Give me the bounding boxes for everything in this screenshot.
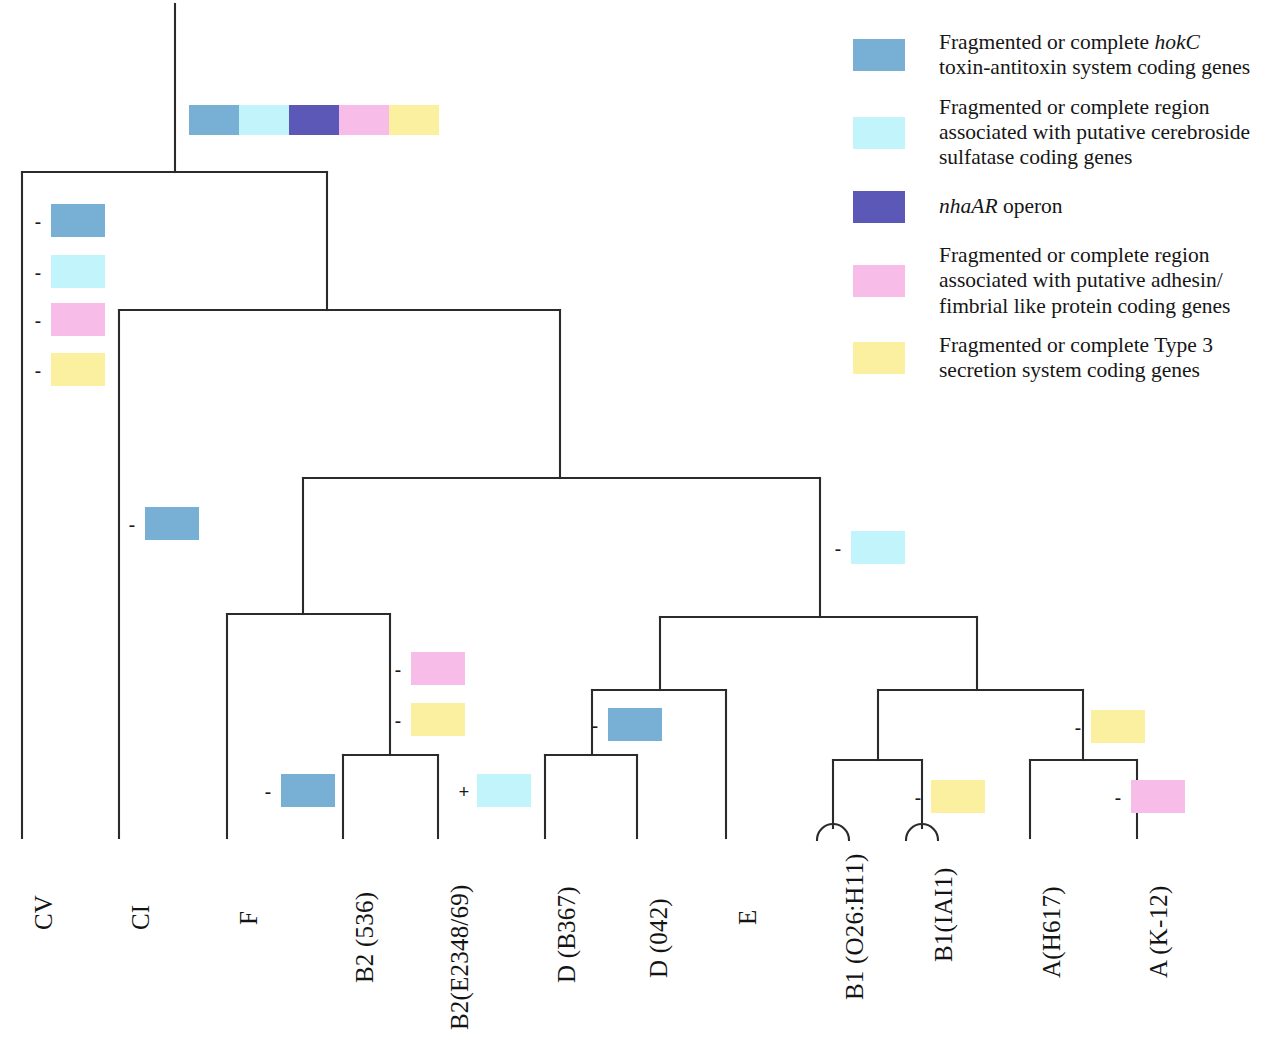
marker-b1iai1-t3ss: [931, 780, 985, 813]
leaf-label-b1-o26h11: B1 (O26:H11): [841, 853, 869, 1000]
leaf-label-b1-iai1: B1(IAI1): [930, 867, 958, 962]
leaf-label-b2-e234869: B2(E2348/69): [446, 885, 474, 1030]
marker-cv-adhesin-sign: -: [31, 311, 45, 330]
legend-swatch-t3ss: [853, 342, 905, 374]
leaf-label-ci: CI: [127, 905, 155, 930]
marker-b1a-t3ss: [1091, 710, 1145, 743]
legend-label-0: Fragmented or complete hokCtoxin-antitox…: [939, 30, 1250, 81]
marker-right-cerebroside-sign: -: [831, 539, 845, 558]
legend-label-3: Fragmented or complete regionassociated …: [939, 243, 1230, 319]
leaf-label-f: F: [235, 911, 263, 925]
marker-cv-adhesin: [51, 303, 105, 336]
root-bar-segment-t3ss: [389, 105, 439, 135]
legend-row-3: Fragmented or complete regionassociated …: [853, 243, 1283, 319]
marker-cv-hokc-sign: -: [31, 212, 45, 231]
legend-row-0: Fragmented or complete hokCtoxin-antitox…: [853, 30, 1283, 81]
legend-row-4: Fragmented or complete Type 3secretion s…: [853, 333, 1283, 384]
marker-b2clade-t3ss-sign: -: [391, 711, 405, 730]
marker-b1iai1-t3ss-sign: -: [911, 788, 925, 807]
marker-cv-cerebroside: [51, 255, 105, 288]
legend-gene-name-2: nhaAR: [939, 194, 998, 218]
marker-dclade-hokc: [608, 708, 662, 741]
marker-ak12-adhesin: [1131, 780, 1185, 813]
legend-label-2: nhaAR operon: [939, 194, 1063, 219]
leaf-label-a-k12: A (K-12): [1145, 885, 1173, 978]
legend-swatch-cerebroside: [853, 117, 905, 149]
root-gene-content-bar: [189, 105, 439, 135]
marker-b2-cerebroside: [477, 774, 531, 807]
leaf-label-e: E: [734, 910, 762, 925]
figure-canvas: ---------+---- CVCIFB2 (536)B2(E2348/69)…: [0, 0, 1284, 1037]
legend-swatch-adhesin: [853, 265, 905, 297]
marker-cv-t3ss: [51, 353, 105, 386]
marker-f-hokc: [281, 774, 335, 807]
leaf-label-a-h617: A(H617): [1038, 886, 1066, 978]
legend-row-1: Fragmented or complete regionassociated …: [853, 95, 1283, 171]
legend-gene-name-0: hokC: [1155, 30, 1200, 54]
legend: Fragmented or complete hokCtoxin-antitox…: [853, 30, 1283, 398]
marker-b1a-t3ss-sign: -: [1071, 718, 1085, 737]
root-bar-segment-cerebroside: [239, 105, 289, 135]
marker-f-hokc-sign: -: [261, 782, 275, 801]
leaf-label-cv: CV: [30, 895, 58, 930]
leaf-tip-caps: [817, 824, 938, 840]
marker-ak12-adhesin-sign: -: [1111, 788, 1125, 807]
marker-cv-cerebroside-sign: -: [31, 263, 45, 282]
marker-b2clade-adhesin-sign: -: [391, 660, 405, 679]
marker-cv-t3ss-sign: -: [31, 361, 45, 380]
marker-b2-cerebroside-sign: +: [457, 782, 471, 801]
marker-right-cerebroside: [851, 531, 905, 564]
leaf-label-b2-536: B2 (536): [351, 892, 379, 983]
root-bar-segment-hokc: [189, 105, 239, 135]
root-bar-segment-nhaar: [289, 105, 339, 135]
marker-cv-hokc: [51, 204, 105, 237]
legend-label-1: Fragmented or complete regionassociated …: [939, 95, 1250, 171]
marker-b2clade-t3ss: [411, 703, 465, 736]
marker-ci-hokc-sign: -: [125, 515, 139, 534]
leaf-label-d-042: D (042): [645, 898, 673, 978]
legend-label-4: Fragmented or complete Type 3secretion s…: [939, 333, 1213, 384]
marker-b2clade-adhesin: [411, 652, 465, 685]
legend-swatch-nhaar: [853, 191, 905, 223]
legend-row-2: nhaAR operon: [853, 185, 1283, 229]
marker-dclade-hokc-sign: -: [588, 716, 602, 735]
leaf-label-d-b367: D (B367): [553, 886, 581, 983]
marker-ci-hokc: [145, 507, 199, 540]
root-bar-segment-adhesin: [339, 105, 389, 135]
legend-swatch-hokc: [853, 39, 905, 71]
